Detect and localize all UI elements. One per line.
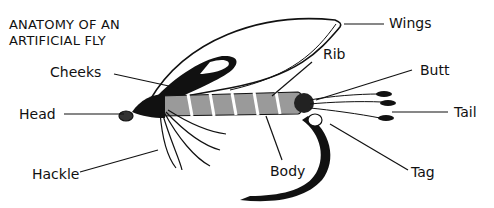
diagram-title: ANATOMY OF AN ARTIFICIAL FLY	[9, 17, 120, 49]
artificial-fly-diagram: ANATOMY OF AN ARTIFICIAL FLY Wings Rib B…	[0, 0, 494, 208]
label-tail: Tail	[454, 104, 477, 120]
label-head: Head	[19, 106, 56, 122]
label-cheeks: Cheeks	[50, 64, 101, 80]
title-line-1: ANATOMY OF AN	[9, 17, 120, 33]
fly-butt	[294, 93, 314, 113]
hook-eye	[119, 111, 133, 121]
label-body: Body	[270, 163, 305, 179]
label-rib: Rib	[323, 46, 346, 62]
label-butt: Butt	[420, 62, 449, 78]
title-line-2: ARTIFICIAL FLY	[9, 33, 120, 49]
label-tag: Tag	[411, 164, 435, 180]
fly-tag	[308, 114, 322, 126]
hook	[240, 116, 330, 201]
label-hackle: Hackle	[32, 166, 79, 182]
label-wings: Wings	[389, 15, 431, 31]
